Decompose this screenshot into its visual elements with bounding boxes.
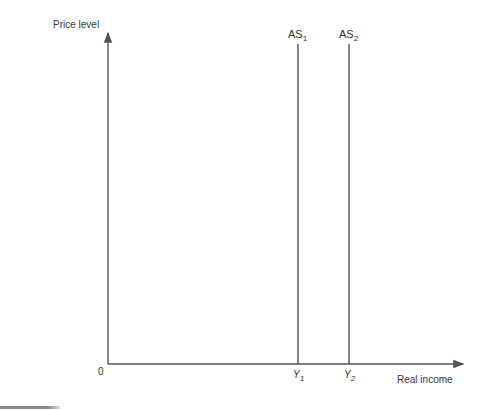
as2-name: AS — [339, 28, 354, 40]
as2-label: AS2 — [339, 28, 358, 43]
as1-name: AS — [288, 28, 303, 40]
x-axis-label: Real income — [397, 374, 453, 385]
origin-label: 0 — [98, 366, 104, 377]
y-axis-label: Price level — [53, 19, 99, 30]
y2-subscript: 2 — [351, 374, 355, 383]
as1-subscript: 1 — [303, 34, 307, 43]
as2-subscript: 2 — [354, 34, 358, 43]
as1-label: AS1 — [288, 28, 307, 43]
bottom-decoration-bar — [0, 406, 60, 409]
y2-letter: Y — [344, 369, 351, 380]
y1-letter: Y — [293, 369, 300, 380]
y1-subscript: 1 — [300, 374, 304, 383]
y1-tick-label: Y1 — [293, 369, 304, 383]
y2-tick-label: Y2 — [344, 369, 355, 383]
diagram-canvas — [0, 0, 504, 410]
